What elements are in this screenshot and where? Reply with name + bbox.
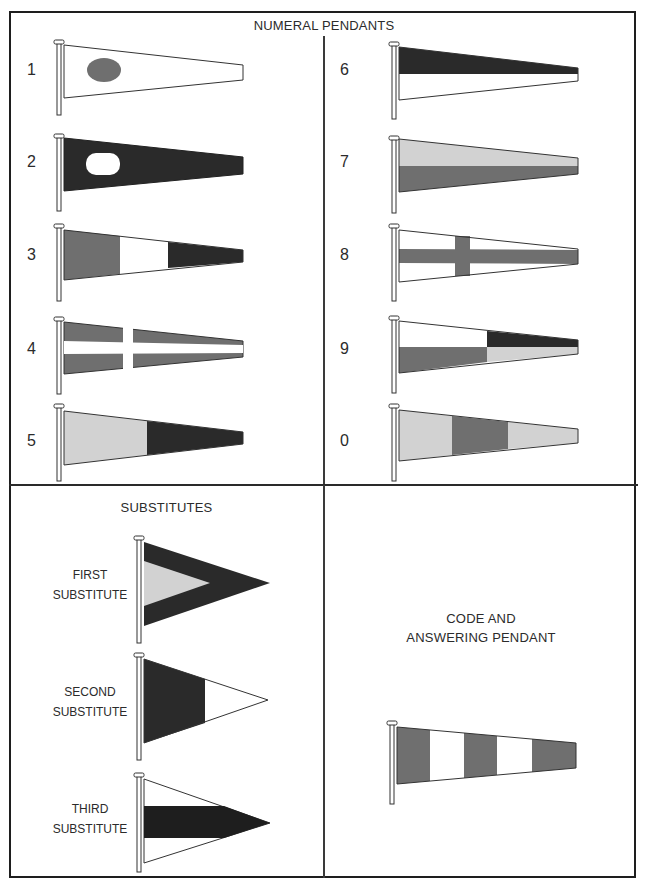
code-answering-pendant-flag xyxy=(386,721,586,811)
pendant-7-flag xyxy=(388,136,588,216)
pendant-8-flag xyxy=(388,224,588,304)
pendant-label-5: 5 xyxy=(27,432,36,450)
pendant-label-6: 6 xyxy=(340,61,349,79)
first-substitute-flag xyxy=(133,536,283,646)
pendant-1-flag xyxy=(53,40,253,120)
pendant-0-flag xyxy=(388,404,588,484)
pendant-label-4: 4 xyxy=(27,340,36,358)
pendant-label-1: 1 xyxy=(27,61,36,79)
pendant-6-flag xyxy=(388,42,588,122)
column-divider-top xyxy=(323,36,325,484)
pendant-label-0: 0 xyxy=(340,432,349,450)
pendant-9-flag xyxy=(388,316,588,396)
second-substitute-label: SECOND SUBSTITUTE xyxy=(30,682,150,722)
pendant-3-flag xyxy=(53,224,253,304)
third-substitute-label: THIRD SUBSTITUTE xyxy=(30,799,150,839)
column-divider-bottom xyxy=(323,485,325,878)
pendant-5-flag xyxy=(53,404,253,484)
pendant-label-9: 9 xyxy=(340,340,349,358)
pendant-label-2: 2 xyxy=(27,153,36,171)
pendant-label-7: 7 xyxy=(340,153,349,171)
code-pendant-title-line1: CODE AND xyxy=(324,611,638,626)
third-substitute-flag xyxy=(133,773,283,883)
pendant-label-3: 3 xyxy=(27,246,36,264)
pendant-4-flag xyxy=(53,317,253,397)
pendant-2-flag xyxy=(53,134,253,214)
first-substitute-label: FIRST SUBSTITUTE xyxy=(30,565,150,605)
second-substitute-flag xyxy=(133,653,283,763)
code-pendant-title-line2: ANSWERING PENDANT xyxy=(324,630,638,645)
numeral-pendants-title: NUMERAL PENDANTS xyxy=(0,18,648,33)
substitutes-title: SUBSTITUTES xyxy=(9,500,324,515)
pendant-label-8: 8 xyxy=(340,246,349,264)
